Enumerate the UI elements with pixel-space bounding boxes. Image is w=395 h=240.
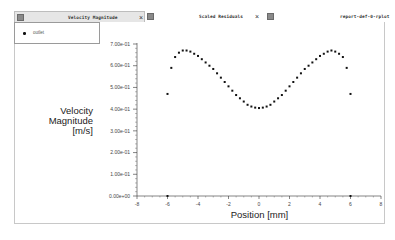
data-point [178,52,180,54]
data-point [205,61,207,63]
data-point [186,50,188,52]
data-point [334,51,336,53]
data-point [304,68,306,70]
x-tick-label: -8 [135,201,140,207]
data-point [182,50,184,52]
data-point [281,94,283,96]
data-point [262,107,264,109]
x-tick-label: 8 [380,201,383,207]
data-point [212,68,214,70]
y-tick-label: 1.00e-01 [110,171,130,177]
data-point [216,72,218,74]
data-point [266,106,268,108]
y-tick-label: 4.00e-01 [110,106,130,112]
y-tick-label: 2.00e-01 [110,149,130,155]
legend[interactable]: outlet [14,22,100,44]
data-point [342,56,344,58]
data-point [235,94,237,96]
data-point [170,67,172,69]
data-point [327,51,329,53]
data-point [167,93,169,95]
data-point [247,104,249,106]
x-tick-label: 2 [288,201,291,207]
data-point [292,81,294,83]
x-tick-label: -6 [165,201,170,207]
data-point [315,58,317,60]
data-point [308,65,310,67]
x-tick-label: -4 [196,201,201,207]
x-tick-label: 0 [258,201,261,207]
y-tick-label: 3.00e-01 [110,128,130,134]
data-point [258,107,260,109]
data-point [189,51,191,53]
data-point [239,97,241,99]
data-point [300,72,302,74]
data-point [330,50,332,52]
data-point [193,53,195,55]
data-point [350,93,352,95]
data-point [231,90,233,92]
x-axis-label: Position [mm] [0,209,395,220]
data-point [208,65,210,67]
data-point [319,55,321,57]
y-axis-label: Velocity Magnitude [m/s] [49,106,93,136]
legend-label: outlet [33,30,44,35]
data-point [323,53,325,55]
data-point [228,85,230,87]
data-point [167,195,169,197]
data-point [285,90,287,92]
data-point [273,101,275,103]
data-point [243,101,245,103]
x-tick-label: 4 [319,201,322,207]
data-point [346,67,348,69]
data-point [254,107,256,109]
x-tick-label: 6 [349,201,352,207]
data-point [220,77,222,79]
data-point [289,85,291,87]
data-point [224,81,226,83]
data-point [197,55,199,57]
x-tick-label: -2 [226,201,231,207]
data-point [250,106,252,108]
data-point [277,97,279,99]
data-point [174,56,176,58]
y-tick-label: 0.00e+00 [109,193,130,199]
y-axis-label-line: [m/s] [49,126,93,136]
y-tick-label: 7.00e-01 [110,41,130,47]
y-tick-label: 5.00e-01 [110,84,130,90]
data-point [338,53,340,55]
data-point [201,58,203,60]
data-point [311,61,313,63]
data-point [269,104,271,106]
data-point [350,195,352,197]
legend-marker-icon [23,32,26,35]
data-point [296,77,298,79]
y-tick-label: 6.00e-01 [110,62,130,68]
